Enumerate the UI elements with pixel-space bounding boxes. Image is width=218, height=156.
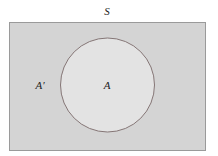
universe-label: S: [104, 5, 110, 17]
set-a-label: A: [103, 79, 111, 91]
venn-diagram: S A A′: [0, 0, 218, 156]
complement-label: A′: [34, 79, 45, 91]
